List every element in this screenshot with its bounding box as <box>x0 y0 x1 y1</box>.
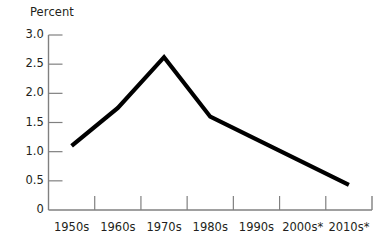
x-tick-label: 1990s <box>239 220 274 234</box>
x-tick-label: 1980s <box>193 220 228 234</box>
x-axis-tick-labels: 1950s1960s1970s1980s1990s2000s*2010s* <box>0 0 390 246</box>
x-tick-label: 2010s* <box>328 220 369 234</box>
x-tick-label: 1970s <box>146 220 181 234</box>
x-tick-label: 1960s <box>100 220 135 234</box>
x-tick-label: 1950s <box>54 220 89 234</box>
line-chart-figure: Percent 3.02.52.01.51.00.50 1950s1960s19… <box>0 0 390 246</box>
x-tick-label: 2000s* <box>282 220 323 234</box>
